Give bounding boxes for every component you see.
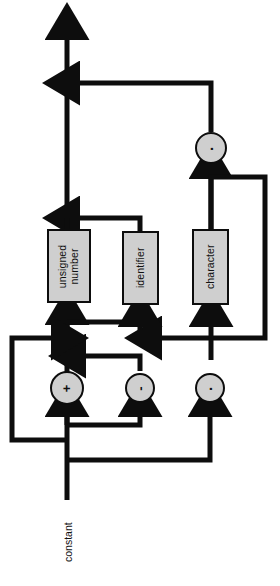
operator-glyph: · bbox=[204, 386, 217, 391]
operator-minus[interactable]: - bbox=[125, 373, 155, 403]
operator-plus[interactable]: + bbox=[50, 371, 84, 405]
operator-concat-top[interactable]: · bbox=[195, 132, 227, 164]
operator-glyph: · bbox=[205, 146, 218, 151]
entry-label: constant bbox=[62, 522, 74, 562]
edge-minus-return bbox=[80, 356, 140, 371]
edge-trunk-to-minus bbox=[67, 411, 140, 425]
edge-concat-top-return bbox=[74, 83, 211, 132]
node-identifier[interactable]: identifier bbox=[122, 231, 159, 305]
diagram-canvas: unsigned number identifier character + -… bbox=[0, 0, 280, 586]
node-unsigned-number[interactable]: unsigned number bbox=[47, 229, 91, 303]
node-label: identifier bbox=[135, 248, 147, 289]
node-character[interactable]: character bbox=[192, 229, 229, 305]
operator-glyph: + bbox=[61, 384, 74, 392]
node-label: unsigned number bbox=[58, 244, 81, 287]
edge-trunk-to-identifier-h bbox=[67, 321, 140, 322]
operator-concat[interactable]: · bbox=[195, 373, 225, 403]
node-label: character bbox=[205, 245, 217, 290]
operator-glyph: - bbox=[134, 386, 147, 390]
